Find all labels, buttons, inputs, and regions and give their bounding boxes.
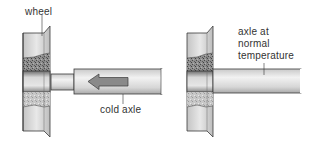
- axle-normal-temp-label-line1: axle at: [238, 26, 269, 37]
- wheel-label: wheel: [25, 6, 52, 17]
- fitted-axle: [213, 69, 301, 93]
- shrink-fit-diagram: [0, 0, 321, 150]
- right-wheel: [187, 26, 213, 137]
- cold-axle-label: cold axle: [100, 104, 141, 115]
- axle-normal-temp-label-line2: normal: [238, 38, 270, 49]
- axle-normal-temp-label-line3: temperature: [238, 50, 294, 61]
- left-wheel: [23, 26, 50, 137]
